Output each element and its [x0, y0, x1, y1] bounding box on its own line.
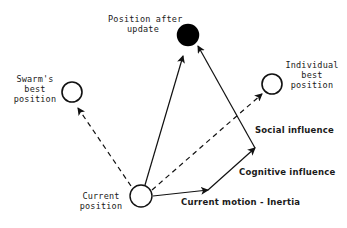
label-cognitive-influence: Cognitive influence: [239, 167, 335, 177]
label-swarm-best-line3: position: [12, 94, 58, 104]
arrow-to-after-update: [145, 56, 183, 185]
label-after-update: Position after update: [108, 14, 178, 34]
label-current-line2: position: [78, 201, 124, 211]
label-after-update-line2: update: [108, 24, 178, 34]
arrow-to-swarm-best: [78, 108, 131, 186]
pso-diagram: [0, 0, 347, 228]
label-inertia: Current motion - Inertia: [181, 197, 300, 207]
node-after-update: [178, 25, 199, 46]
arrow-inertia: [153, 190, 208, 196]
label-swarm-best: Swarm's best position: [12, 74, 58, 104]
node-individual-best: [262, 74, 282, 94]
node-swarm-best: [62, 82, 82, 102]
label-individual-best: Individual best position: [284, 60, 340, 90]
label-individual-best-line3: position: [284, 80, 340, 90]
node-current: [130, 185, 152, 207]
label-swarm-best-line1: Swarm's: [12, 74, 58, 84]
label-social-influence: Social influence: [255, 125, 334, 135]
label-after-update-line1: Position after: [108, 14, 178, 24]
label-individual-best-line1: Individual: [284, 60, 340, 70]
label-individual-best-line2: best: [284, 70, 340, 80]
label-swarm-best-line2: best: [12, 84, 58, 94]
label-current: Current position: [78, 191, 124, 211]
label-current-line1: Current: [78, 191, 124, 201]
arrow-social: [198, 46, 255, 148]
